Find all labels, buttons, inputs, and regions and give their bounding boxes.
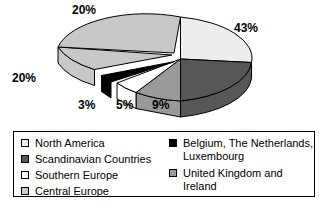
legend-column-right: Belgium, The Netherlands, Luxembourg Uni… xyxy=(166,137,314,196)
legend-item-benelux: Belgium, The Netherlands, Luxembourg xyxy=(169,137,314,165)
pie-label-southern-europe: 5% xyxy=(116,99,133,111)
legend-swatch-central-europe xyxy=(21,187,29,195)
legend-swatch-southern-europe xyxy=(21,171,29,179)
legend-label-uk-ireland: United Kingdom and Ireland xyxy=(183,167,314,193)
pie-label-north-america: 43% xyxy=(234,22,258,34)
pie-label-uk-ireland: 9% xyxy=(152,99,169,111)
legend-label-scandinavian: Scandinavian Countries xyxy=(35,153,151,166)
legend-label-north-america: North America xyxy=(35,137,105,150)
legend-label-southern-europe: Southern Europe xyxy=(35,169,118,182)
pie-chart-figure: 43% 9% 5% 3% 20% 20% North America Scand… xyxy=(0,0,331,213)
legend-item-uk-ireland: United Kingdom and Ireland xyxy=(169,167,314,181)
legend-swatch-benelux xyxy=(169,139,177,147)
legend-item-north-america: North America xyxy=(21,137,166,151)
legend-item-scandinavian: Scandinavian Countries xyxy=(21,153,166,167)
legend-column-left: North America Scandinavian Countries Sou… xyxy=(14,137,166,196)
legend-item-central-europe: Central Europe xyxy=(21,185,166,199)
legend-label-central-europe: Central Europe xyxy=(35,185,109,198)
pie-label-scandinavian: 20% xyxy=(12,72,36,84)
slice-top-central-europe-upper xyxy=(58,14,181,53)
legend-label-benelux: Belgium, The Netherlands, Luxembourg xyxy=(183,137,313,163)
legend-swatch-north-america xyxy=(21,139,29,147)
legend-item-southern-europe: Southern Europe xyxy=(21,169,166,183)
legend-swatch-scandinavian xyxy=(21,155,29,163)
legend-swatch-uk-ireland xyxy=(169,169,177,177)
pie-label-benelux: 3% xyxy=(78,99,95,111)
pie-label-central-europe: 20% xyxy=(72,4,96,16)
chart-legend: North America Scandinavian Countries Sou… xyxy=(13,131,315,197)
pie-chart-plot: 43% 9% 5% 3% 20% 20% xyxy=(0,0,331,124)
